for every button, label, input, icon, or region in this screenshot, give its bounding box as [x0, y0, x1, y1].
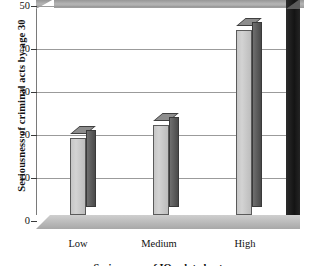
x-axis-title: Seriousness of IQ-related acts: [0, 262, 320, 266]
y-tick-label-50: 50: [6, 1, 30, 11]
y-tick-label-0: 0: [6, 216, 30, 226]
bar-chart: Seriousness of criminal acts by age 30 5…: [0, 0, 320, 266]
tickmark-10: [31, 178, 37, 179]
y-tick-label-20: 20: [6, 130, 30, 140]
gridline-50: [36, 6, 286, 7]
bar-low-face: [70, 138, 86, 215]
bar-high-side: [252, 22, 262, 207]
tickmark-50: [31, 6, 37, 7]
bar-medium-side: [169, 117, 179, 207]
tickmark-30: [31, 92, 37, 93]
bar-medium-face: [153, 125, 169, 215]
bar-low-side: [86, 130, 96, 207]
chart-floor-plane: [36, 215, 300, 229]
bar-high-face: [236, 30, 252, 215]
tickmark-20: [31, 135, 37, 136]
bar-low: [70, 130, 96, 215]
y-tick-label-10: 10: [6, 173, 30, 183]
y-tick-label-40: 40: [6, 44, 30, 54]
tickmark-0: [31, 221, 37, 222]
chart-right-wall: [286, 0, 300, 221]
plot-area: [36, 6, 304, 221]
x-tick-label-high: High: [215, 238, 275, 249]
x-tick-label-low: Low: [48, 238, 108, 249]
bar-high: [236, 22, 262, 215]
y-tick-label-30: 30: [6, 87, 30, 97]
x-tick-label-medium: Medium: [124, 238, 194, 249]
y-axis-tick-labels: 50 40 30 20 10 0: [6, 0, 30, 266]
tickmark-40: [31, 49, 37, 50]
bar-medium: [153, 117, 179, 215]
